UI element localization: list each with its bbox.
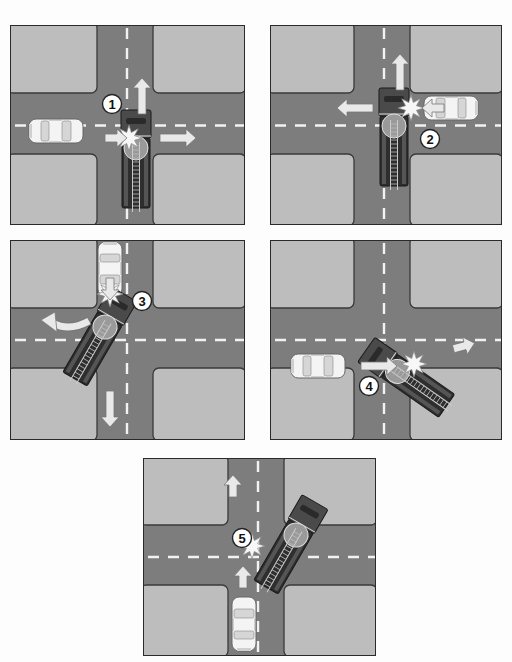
city-block <box>11 26 97 93</box>
city-block <box>153 26 245 93</box>
city-block <box>284 585 376 656</box>
scenario-number: 1 <box>108 97 115 112</box>
scenario-number-badge: 1 <box>103 95 122 114</box>
scenario-number-badge: 4 <box>360 377 379 396</box>
scenario-number-badge: 2 <box>421 130 440 149</box>
city-block <box>271 154 354 225</box>
city-block <box>11 154 97 225</box>
city-block <box>410 26 502 93</box>
city-block <box>410 154 502 225</box>
scenario-panel-3: 3 <box>10 240 245 440</box>
impact-burst-icon <box>401 351 427 377</box>
scenario-number: 2 <box>426 132 433 147</box>
scenario-number: 5 <box>238 531 245 546</box>
scenario-number-badge: 5 <box>233 529 252 548</box>
city-block <box>144 459 228 525</box>
scenario-number: 3 <box>138 294 145 309</box>
car-icon <box>232 597 256 651</box>
scenario-panel-4: 4 <box>270 240 502 440</box>
scenario-panel-1: 1 <box>10 25 245 225</box>
scenario-number: 4 <box>365 379 373 394</box>
scenario-panel-5: 5 <box>143 458 376 656</box>
city-block <box>271 26 354 93</box>
fire-truck-icon <box>121 110 151 212</box>
car-icon <box>291 354 345 378</box>
city-block <box>410 241 502 308</box>
city-block <box>271 241 354 308</box>
city-block <box>144 585 228 656</box>
city-block <box>153 154 245 225</box>
scenario-panel-2: 2 <box>270 25 502 225</box>
city-block <box>153 241 245 308</box>
impact-burst-icon <box>398 95 424 121</box>
car-icon <box>29 119 83 143</box>
city-block <box>153 368 245 440</box>
scenario-number-badge: 3 <box>133 292 152 311</box>
city-block <box>271 368 354 440</box>
city-block <box>11 241 97 308</box>
